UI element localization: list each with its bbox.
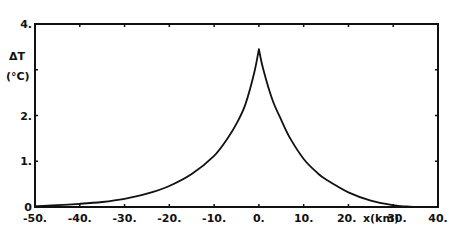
x-axis-title: x(km) <box>363 212 399 225</box>
plot-frame <box>35 24 438 207</box>
x-tick-label: 0. <box>253 212 265 225</box>
x-tick-label: 40. <box>428 212 448 225</box>
data-line <box>35 49 416 207</box>
chart: 01.2.4. -50.-40.-30.-20.-10.0.10.20.30.4… <box>0 0 456 236</box>
x-tick-label: -50. <box>23 212 47 225</box>
y-axis-title-line1: ΔT <box>9 50 26 63</box>
x-tick-label: -30. <box>113 212 137 225</box>
y-axis-ticks: 01.2.4. <box>20 18 438 214</box>
x-tick-label: 10. <box>294 212 314 225</box>
y-tick-label: 2. <box>20 110 32 123</box>
x-tick-label: 20. <box>337 212 357 225</box>
x-tick-label: -20. <box>157 212 181 225</box>
x-tick-label: -10. <box>202 212 226 225</box>
y-axis-title-line2: (°C) <box>6 70 30 83</box>
y-tick-label: 4. <box>20 18 32 31</box>
x-tick-label: -40. <box>68 212 92 225</box>
y-tick-label: 1. <box>20 155 32 168</box>
